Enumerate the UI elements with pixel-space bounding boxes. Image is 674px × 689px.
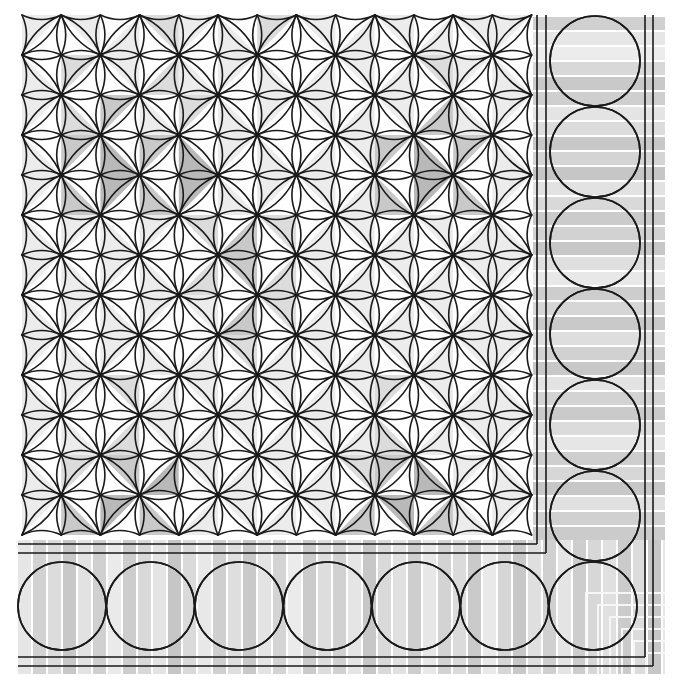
quilt-pattern xyxy=(0,0,674,689)
main-grid-shading xyxy=(22,15,532,535)
